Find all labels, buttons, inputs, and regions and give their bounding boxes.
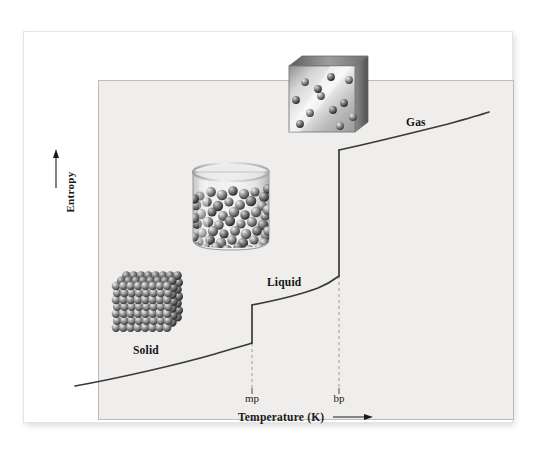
x-axis-title: Temperature (K) [238,411,324,423]
y-axis-title: Entropy [64,152,76,232]
phase-label-gas: Gas [406,116,426,128]
tick-label-mp: mp [232,392,272,404]
figure-root: Entropy Temperature (K) mp bp Solid Liqu… [0,0,536,454]
tick-label-bp: bp [319,392,359,404]
plot-panel [98,80,514,420]
figure-card [23,31,513,423]
phase-label-solid: Solid [133,344,159,356]
phase-label-liquid: Liquid [267,276,301,288]
